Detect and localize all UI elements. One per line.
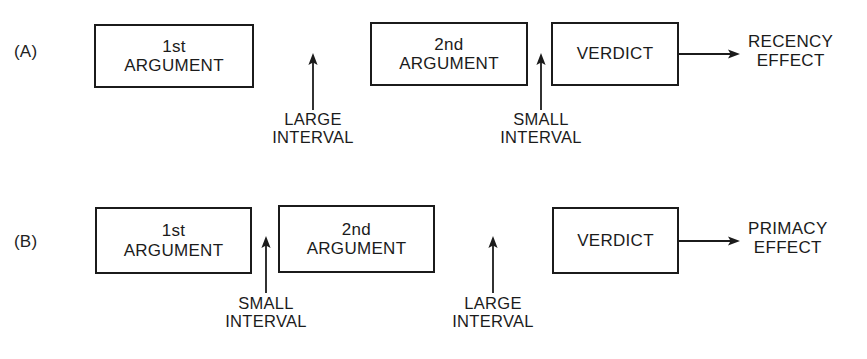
panel-a-box-verdict: VERDICT xyxy=(551,22,679,86)
panel-b-box-first-argument-text: 1st ARGUMENT xyxy=(124,221,224,259)
panel-b-large-interval-arrow xyxy=(485,235,501,293)
panel-b-outcome-label: PRIMACY EFFECT xyxy=(748,219,828,257)
panel-b-box-second-argument: 2nd ARGUMENT xyxy=(278,205,435,273)
panel-a-box-first-argument-text: 1st ARGUMENT xyxy=(124,37,224,75)
diagram-canvas: (A) 1st ARGUMENT LARGE INTERVAL 2nd ARGU… xyxy=(0,0,867,359)
panel-a-box-second-argument-text: 2nd ARGUMENT xyxy=(399,35,499,73)
panel-a-large-interval-arrow xyxy=(305,52,321,110)
panel-a-box-first-argument: 1st ARGUMENT xyxy=(94,24,254,88)
panel-b-small-interval-arrow xyxy=(258,235,274,293)
panel-a-label: (A) xyxy=(14,42,37,62)
panel-b-box-verdict-text: VERDICT xyxy=(577,231,654,250)
panel-a-box-second-argument: 2nd ARGUMENT xyxy=(370,22,528,86)
panel-a-outcome-label: RECENCY EFFECT xyxy=(748,32,833,70)
panel-b-box-first-argument: 1st ARGUMENT xyxy=(95,207,252,274)
panel-b-label: (B) xyxy=(14,232,37,252)
panel-a-large-interval-label: LARGE INTERVAL xyxy=(272,110,354,147)
panel-b-large-interval-label: LARGE INTERVAL xyxy=(452,294,534,331)
panel-a-box-verdict-text: VERDICT xyxy=(577,44,654,63)
panel-b-box-verdict: VERDICT xyxy=(552,207,679,274)
panel-b-outcome-arrow xyxy=(679,233,741,249)
panel-b-small-interval-label: SMALL INTERVAL xyxy=(225,294,307,331)
panel-a-small-interval-label: SMALL INTERVAL xyxy=(500,110,582,147)
panel-a-small-interval-arrow xyxy=(533,52,549,110)
panel-b-box-second-argument-text: 2nd ARGUMENT xyxy=(307,220,407,258)
panel-a-outcome-arrow xyxy=(679,46,741,62)
